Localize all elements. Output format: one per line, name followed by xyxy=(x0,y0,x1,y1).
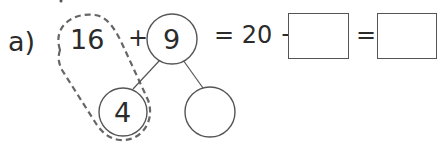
question-label: a) xyxy=(8,28,35,55)
partition-left-value: 4 xyxy=(114,99,131,126)
cropped-mark xyxy=(60,0,63,3)
plus-sign: + xyxy=(128,26,148,50)
answer-box-2[interactable] xyxy=(377,13,437,59)
left-number: 16 xyxy=(70,26,104,53)
top-circle-value: 9 xyxy=(163,26,180,53)
branch-line-right xyxy=(183,60,203,88)
equals-sign: = xyxy=(356,23,376,47)
answer-box-1[interactable] xyxy=(288,13,349,59)
partition-right-circle[interactable] xyxy=(185,87,235,137)
